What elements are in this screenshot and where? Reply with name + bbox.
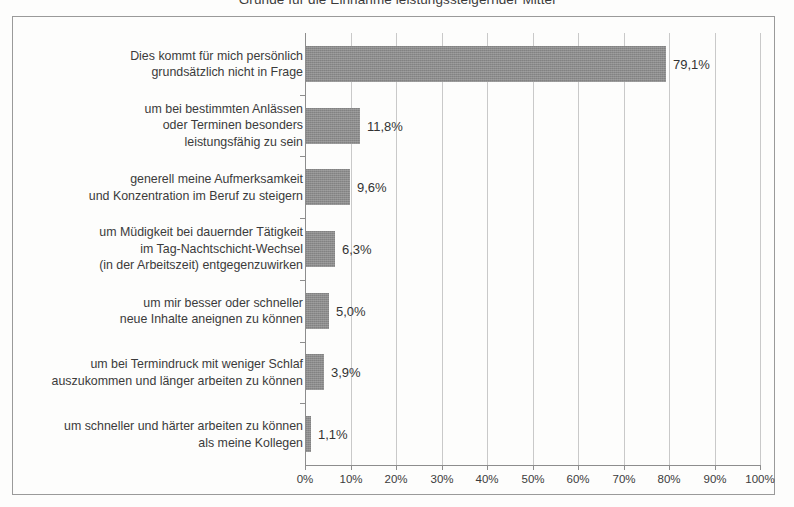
gridline (442, 33, 443, 465)
x-axis-tick (715, 465, 716, 470)
gridline (624, 33, 625, 465)
plot-area: 0%10%20%30%40%50%60%70%80%90%100%79,1%11… (305, 33, 760, 465)
gridline (760, 33, 761, 465)
x-axis-tick-label: 50% (521, 473, 544, 485)
x-axis-tick-label: 90% (703, 473, 726, 485)
bar (306, 169, 350, 205)
category-label: um Müdigkeit bei dauernder Tätigkeit im … (13, 224, 305, 274)
gridline (578, 33, 579, 465)
x-axis-tick-label: 20% (384, 473, 407, 485)
category-label-axis: Dies kommt für mich persönlich grundsätz… (13, 33, 305, 465)
bar (306, 416, 311, 452)
x-axis-tick (578, 465, 579, 470)
bar (306, 293, 329, 329)
page-background: Gründe für die Einnahme leistungssteiger… (0, 0, 794, 507)
x-axis-tick-label: 70% (612, 473, 635, 485)
y-axis-tick (300, 156, 305, 157)
bar-value-label: 11,8% (367, 118, 403, 133)
x-axis-tick (351, 465, 352, 470)
x-axis-tick (442, 465, 443, 470)
chart-title-text: Gründe für die Einnahme leistungssteiger… (239, 0, 556, 7)
x-axis-tick-label: 40% (475, 473, 498, 485)
y-axis-tick (300, 280, 305, 281)
bar (306, 46, 666, 82)
gridline (533, 33, 534, 465)
chart-frame: Dies kommt für mich persönlich grundsätz… (12, 16, 775, 495)
x-axis-tick-label: 30% (430, 473, 453, 485)
x-axis-tick-label: 60% (566, 473, 589, 485)
category-label: generell meine Aufmerksamkeit und Konzen… (13, 171, 305, 204)
x-axis-tick-label: 100% (745, 473, 774, 485)
y-axis-tick (300, 403, 305, 404)
gridline (715, 33, 716, 465)
gridline (396, 33, 397, 465)
x-axis-tick (669, 465, 670, 470)
chart-title-clipped: Gründe für die Einnahme leistungssteiger… (0, 0, 794, 13)
x-axis-tick (533, 465, 534, 470)
bar (306, 108, 360, 144)
gridline (487, 33, 488, 465)
x-axis-tick (396, 465, 397, 470)
y-axis-tick (300, 342, 305, 343)
bar-value-label: 3,9% (331, 365, 361, 380)
x-axis-tick (760, 465, 761, 470)
x-axis-tick (305, 465, 306, 470)
bar-value-label: 79,1% (673, 56, 710, 71)
x-axis-tick (624, 465, 625, 470)
x-axis-tick-label: 0% (297, 473, 314, 485)
bar-value-label: 5,0% (336, 303, 366, 318)
category-label: um bei Termindruck mit weniger Schlaf au… (13, 356, 305, 389)
bar-value-label: 9,6% (357, 180, 387, 195)
gridline (669, 33, 670, 465)
category-label: um mir besser oder schneller neue Inhalt… (13, 294, 305, 327)
category-label: um bei bestimmten Anlässen oder Terminen… (13, 101, 305, 151)
category-label: um schneller und härter arbeiten zu könn… (13, 418, 305, 451)
bar (306, 354, 324, 390)
x-axis-tick-label: 80% (657, 473, 680, 485)
x-axis-tick-label: 10% (339, 473, 362, 485)
bar-value-label: 1,1% (318, 427, 348, 442)
bar (306, 231, 335, 267)
category-label: Dies kommt für mich persönlich grundsätz… (13, 47, 305, 80)
y-axis-tick (300, 95, 305, 96)
x-axis-tick (487, 465, 488, 470)
y-axis-tick (300, 218, 305, 219)
bar-value-label: 6,3% (342, 242, 372, 257)
